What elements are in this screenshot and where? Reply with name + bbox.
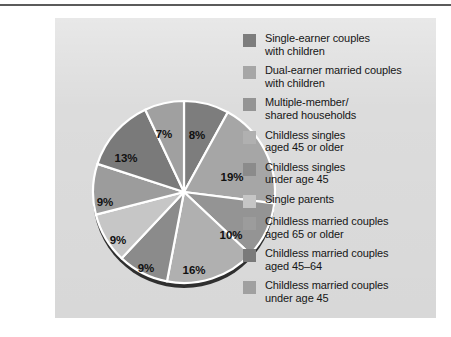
legend-item: Childless married couples aged 45–64 <box>243 247 433 272</box>
legend-item-label: Childless singles aged 45 or older <box>265 129 345 154</box>
figure-panel: 8%19%10%16%9%9%9%13%7% Single-earner cou… <box>55 18 436 318</box>
legend-item: Childless married couples under age 45 <box>243 279 433 304</box>
legend-item: Childless married couples aged 65 or old… <box>243 215 433 240</box>
legend-swatch-icon <box>243 195 256 208</box>
legend-item-label: Childless singles under age 45 <box>265 161 345 186</box>
legend-item-label: Childless married couples aged 45–64 <box>265 247 388 272</box>
legend-item-label: Multiple-member/ shared households <box>265 96 356 121</box>
legend-item: Childless singles under age 45 <box>243 161 433 186</box>
pie-slice-value-label: 9% <box>97 196 114 208</box>
pie-slice-value-label: 16% <box>182 264 205 276</box>
top-horizontal-rule <box>0 4 451 6</box>
legend-swatch-icon <box>243 131 256 144</box>
legend-item: Multiple-member/ shared households <box>243 96 433 121</box>
pie-slice-value-label: 9% <box>110 234 127 246</box>
pie-slice-value-label: 7% <box>156 128 173 140</box>
legend-swatch-icon <box>243 249 256 262</box>
pie-slice-value-label: 13% <box>114 152 137 164</box>
legend-swatch-icon <box>243 34 256 47</box>
legend-item-label: Childless married couples under age 45 <box>265 279 388 304</box>
pie-slice-value-label: 8% <box>189 129 206 141</box>
legend-item: Single-earner couples with children <box>243 32 433 57</box>
legend-item: Dual-earner married couples with childre… <box>243 64 433 89</box>
legend-item-label: Single parents <box>265 193 334 206</box>
legend-item: Single parents <box>243 193 433 208</box>
legend-item-label: Childless married couples aged 65 or old… <box>265 215 388 240</box>
legend-swatch-icon <box>243 281 256 294</box>
pie-slice-value-label: 19% <box>220 171 243 183</box>
legend-item-label: Single-earner couples with children <box>265 32 370 57</box>
legend-swatch-icon <box>243 217 256 230</box>
legend-item-label: Dual-earner married couples with childre… <box>265 64 402 89</box>
legend-swatch-icon <box>243 98 256 111</box>
legend-swatch-icon <box>243 163 256 176</box>
legend-swatch-icon <box>243 66 256 79</box>
pie-slice-value-label: 10% <box>219 229 242 241</box>
pie-slice-value-label: 9% <box>138 262 155 274</box>
legend: Single-earner couples with childrenDual-… <box>243 32 433 312</box>
legend-item: Childless singles aged 45 or older <box>243 129 433 154</box>
